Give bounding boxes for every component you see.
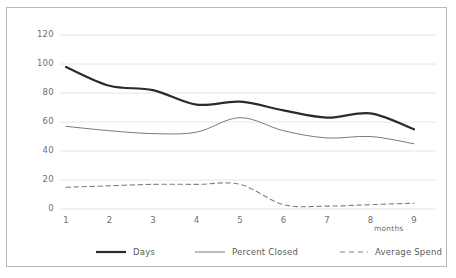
y-tick-label: 120 <box>24 29 54 39</box>
y-tick-label: 100 <box>24 58 54 68</box>
gridlines <box>60 35 436 209</box>
series-line-days <box>66 67 414 129</box>
series-lines <box>66 67 414 207</box>
x-tick-label: 5 <box>230 215 250 225</box>
x-tick-label: 4 <box>187 215 207 225</box>
series-line-average-spend <box>66 183 414 207</box>
x-tick-label: 2 <box>100 215 120 225</box>
legend-item-percent-closed[interactable]: Percent Closed <box>195 247 298 257</box>
x-tick-label: 6 <box>274 215 294 225</box>
x-tick-label: 7 <box>317 215 337 225</box>
y-tick-label: 0 <box>24 203 54 213</box>
y-tick-label: 40 <box>24 145 54 155</box>
y-tick-label: 60 <box>24 116 54 126</box>
chart-legend: Days Percent Closed Average Spend <box>90 243 410 261</box>
legend-item-days[interactable]: Days <box>96 247 155 257</box>
dashed-line-icon <box>338 247 368 257</box>
chart-plot-area <box>0 0 456 278</box>
x-tick-label: 9 <box>404 215 424 225</box>
x-tick-label: 3 <box>143 215 163 225</box>
chart-container: 120100806040200 123456789 months Days Pe… <box>0 0 456 278</box>
thick-solid-line-icon <box>96 247 126 257</box>
thin-solid-line-icon <box>195 247 225 257</box>
legend-label-average-spend: Average Spend <box>375 247 442 257</box>
y-tick-label: 20 <box>24 174 54 184</box>
y-tick-label: 80 <box>24 87 54 97</box>
x-tick-label: 1 <box>56 215 76 225</box>
legend-label-percent-closed: Percent Closed <box>232 247 298 257</box>
x-axis-title: months <box>374 224 403 233</box>
legend-item-average-spend[interactable]: Average Spend <box>338 247 442 257</box>
legend-label-days: Days <box>133 247 155 257</box>
